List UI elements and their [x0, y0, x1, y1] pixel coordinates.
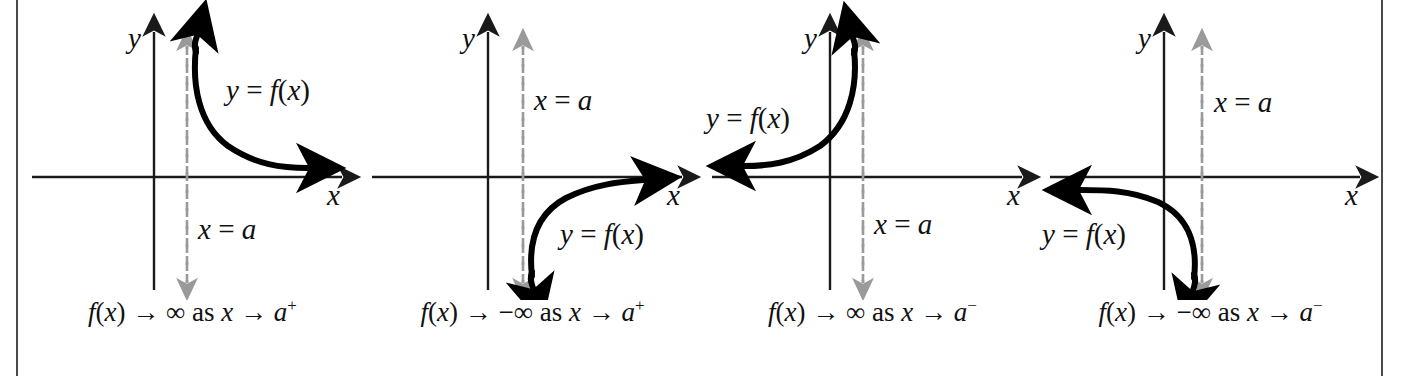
curve-arrow-up	[853, 38, 855, 54]
curve-label: y = f(x)	[557, 218, 644, 251]
curve-arrow-down	[1193, 274, 1195, 290]
panel-4-caption: f(x) → −∞ as x → a−	[1038, 296, 1383, 328]
curve-arrow-up	[195, 36, 197, 52]
asymptote-label: x = a	[1213, 86, 1272, 118]
curve-label: y = f(x)	[223, 74, 310, 107]
panel-2-caption: f(x) → −∞ as x → a+	[360, 296, 705, 328]
asymptote-label: x = a	[873, 208, 932, 240]
y-axis-label: y	[125, 22, 141, 54]
panel-1: y x x = a y = f(x) f(x) → ∞ as x → a+	[20, 0, 365, 376]
curve-label: y = f(x)	[1039, 218, 1126, 251]
x-axis-label: x	[326, 179, 340, 211]
asymptote-figure: y x x = a y = f(x) f(x) → ∞ as x → a+	[0, 0, 1403, 376]
asymptote-label: x = a	[533, 84, 592, 116]
panel-4: y x x = a y = f(x) f(x) → −∞ as x → a−	[1038, 0, 1383, 376]
curve-label: y = f(x)	[703, 102, 790, 135]
x-axis-label: x	[666, 179, 680, 211]
panel-1-caption: f(x) → ∞ as x → a+	[20, 296, 365, 328]
curve-arrow-down	[531, 272, 533, 288]
y-axis-label: y	[801, 22, 817, 54]
panel-3-caption: f(x) → ∞ as x → a−	[700, 296, 1045, 328]
panel-3-plot: y x x = a y = f(x)	[700, 0, 1045, 300]
panel-4-plot: y x x = a y = f(x)	[1038, 0, 1383, 300]
figure-left-rule	[16, 0, 18, 376]
x-axis-label: x	[1006, 179, 1020, 211]
curve-path	[195, 48, 308, 168]
y-axis-label: y	[459, 22, 475, 54]
panel-1-plot: y x x = a y = f(x)	[20, 0, 365, 300]
panel-2: y x x = a y = f(x) f(x) → −∞ as x → a+	[360, 0, 705, 376]
panel-3: y x x = a y = f(x) f(x) → ∞ as x → a−	[700, 0, 1045, 376]
x-axis-label: x	[1344, 179, 1358, 211]
panel-2-plot: y x x = a y = f(x)	[360, 0, 705, 300]
asymptote-label: x = a	[197, 213, 256, 245]
y-axis-label: y	[1135, 22, 1151, 54]
